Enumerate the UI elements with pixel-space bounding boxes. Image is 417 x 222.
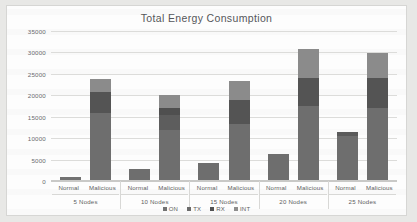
y-axis-tick-label: 30000 bbox=[28, 49, 46, 56]
x-axis-pair: NormalMalicious bbox=[51, 181, 120, 194]
chart-card: Total Energy Consumption 050001000015000… bbox=[6, 5, 407, 216]
x-axis-bar-label: Malicious bbox=[225, 184, 257, 191]
legend-label: ON bbox=[169, 206, 178, 212]
x-axis-group-label: 20 Nodes bbox=[260, 194, 327, 205]
x-axis-bar-label: Malicious bbox=[86, 184, 118, 191]
bar-segment-tx[interactable] bbox=[159, 115, 180, 131]
bar-segment-on[interactable] bbox=[367, 108, 388, 181]
x-axis-bar-label: Normal bbox=[330, 184, 362, 191]
x-axis-group: NormalMalicious20 Nodes bbox=[259, 181, 328, 209]
bar-segment-int[interactable] bbox=[298, 49, 319, 78]
bar-group bbox=[120, 31, 189, 181]
bar-segment-on[interactable] bbox=[90, 113, 111, 181]
bar-segment-int[interactable] bbox=[367, 53, 388, 78]
legend-label: INT bbox=[240, 206, 250, 212]
bar[interactable] bbox=[159, 95, 180, 181]
bar-group bbox=[259, 31, 328, 181]
chart-title: Total Energy Consumption bbox=[7, 12, 406, 24]
x-axis-group-label: 25 Nodes bbox=[329, 194, 396, 205]
bar-segment-int[interactable] bbox=[90, 79, 111, 92]
y-axis-tick-label: 10000 bbox=[28, 135, 46, 142]
y-axis-tick-label: 25000 bbox=[28, 70, 46, 77]
bar-segment-on[interactable] bbox=[298, 106, 319, 181]
x-axis-labels: NormalMalicious5 NodesNormalMalicious10 … bbox=[51, 181, 397, 209]
x-axis-group-label: 15 Nodes bbox=[190, 194, 257, 205]
chart-legend: ONTXRXINT bbox=[7, 206, 406, 212]
x-axis-pair: NormalMalicious bbox=[120, 181, 189, 194]
bar-series bbox=[51, 31, 397, 181]
bar[interactable] bbox=[268, 154, 289, 181]
bar-group bbox=[51, 31, 120, 181]
bar-segment-on[interactable] bbox=[268, 154, 289, 181]
bar-segment-on[interactable] bbox=[159, 130, 180, 181]
x-axis-bar-label: Malicious bbox=[156, 184, 188, 191]
x-axis-group: NormalMalicious5 Nodes bbox=[51, 181, 120, 209]
bar-segment-on[interactable] bbox=[229, 124, 250, 181]
x-axis-pair: NormalMalicious bbox=[328, 181, 397, 194]
bar[interactable] bbox=[367, 53, 388, 181]
x-axis-bar-label: Malicious bbox=[363, 184, 395, 191]
x-axis-pair: NormalMalicious bbox=[259, 181, 328, 194]
y-axis-tick-label: 20000 bbox=[28, 92, 46, 99]
bar-segment-rx[interactable] bbox=[367, 78, 388, 108]
bar-segment-rx[interactable] bbox=[298, 78, 319, 106]
legend-swatch-icon bbox=[234, 207, 238, 211]
legend-swatch-icon bbox=[163, 207, 167, 211]
bar-segment-int[interactable] bbox=[159, 95, 180, 108]
bar[interactable] bbox=[337, 132, 358, 181]
bar-segment-on[interactable] bbox=[198, 163, 219, 181]
legend-item-tx[interactable]: TX bbox=[187, 206, 201, 212]
x-axis-pair: NormalMalicious bbox=[189, 181, 258, 194]
x-axis-group-label: 5 Nodes bbox=[52, 194, 119, 205]
x-axis-bar-label: Normal bbox=[191, 184, 223, 191]
x-axis-bar-label: Normal bbox=[260, 184, 292, 191]
x-axis-bar-label: Normal bbox=[122, 184, 154, 191]
y-axis-tick-label: 5000 bbox=[31, 156, 46, 163]
bar-group bbox=[189, 31, 258, 181]
bar-segment-on[interactable] bbox=[337, 136, 358, 181]
y-axis-tick-label: 0 bbox=[42, 178, 46, 185]
bar[interactable] bbox=[229, 81, 250, 181]
x-axis-group: NormalMalicious15 Nodes bbox=[189, 181, 258, 209]
x-axis-group: NormalMalicious25 Nodes bbox=[328, 181, 397, 209]
y-axis-tick-label: 15000 bbox=[28, 113, 46, 120]
legend-item-rx[interactable]: RX bbox=[210, 206, 225, 212]
legend-label: RX bbox=[216, 206, 225, 212]
x-axis-group: NormalMalicious10 Nodes bbox=[120, 181, 189, 209]
bar-segment-rx[interactable] bbox=[90, 92, 111, 113]
legend-label: TX bbox=[193, 206, 201, 212]
bar[interactable] bbox=[90, 79, 111, 181]
bar[interactable] bbox=[198, 163, 219, 181]
plot-area: 05000100001500020000250003000035000 bbox=[51, 31, 397, 181]
legend-swatch-icon bbox=[187, 207, 191, 211]
x-axis-bar-label: Normal bbox=[53, 184, 85, 191]
bar-segment-int[interactable] bbox=[229, 81, 250, 101]
legend-item-on[interactable]: ON bbox=[163, 206, 178, 212]
x-axis-bar-label: Malicious bbox=[294, 184, 326, 191]
y-axis-tick-label: 35000 bbox=[28, 28, 46, 35]
bar-segment-rx[interactable] bbox=[229, 100, 250, 124]
legend-swatch-icon bbox=[210, 207, 214, 211]
bar-group bbox=[328, 31, 397, 181]
x-axis-group-label: 10 Nodes bbox=[121, 194, 188, 205]
legend-item-int[interactable]: INT bbox=[234, 206, 250, 212]
bar[interactable] bbox=[298, 49, 319, 181]
